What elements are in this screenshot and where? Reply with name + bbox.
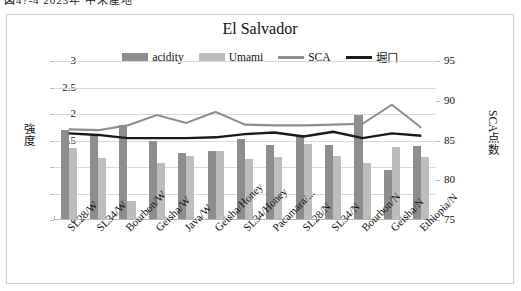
y-tick-mark-right — [436, 61, 440, 62]
y-tick-label-right: 85 — [444, 134, 455, 146]
y-tick-mark-left — [50, 194, 54, 195]
y-tick-mark-right — [436, 141, 440, 142]
line-series-sca — [69, 105, 422, 130]
y-tick-mark-left — [50, 141, 54, 142]
y-axis-label-left: 強度 — [21, 123, 37, 147]
y-tick-mark-left — [50, 114, 54, 115]
y-tick-mark-right — [436, 180, 440, 181]
y-axis-label-right: SCA点数 — [485, 110, 501, 156]
line-series-horiguchi — [69, 132, 422, 138]
cropped-text-above-chart: 図4?-4 2023年 中米産地 — [0, 0, 521, 13]
cropped-caption-text: 図4?-4 2023年 中米産地 — [4, 0, 133, 7]
y-tick-mark-left — [50, 61, 54, 62]
x-tick-mark — [54, 216, 55, 220]
y-tick-label-right: 95 — [444, 54, 455, 66]
y-tick-label-right: 90 — [444, 94, 455, 106]
x-axis-labels: SL28/WSL34/WBourbon/WGeisha/WJava/WGeish… — [54, 225, 436, 285]
chart-title: El Salvador — [7, 20, 513, 38]
y-tick-label-right: 75 — [444, 213, 455, 225]
legend-swatch-sca-icon — [278, 56, 304, 59]
y-tick-mark-right — [436, 101, 440, 102]
legend-swatch-horiguchi-icon — [346, 56, 372, 59]
y-tick-mark-left — [50, 88, 54, 89]
legend-swatch-acidity-icon — [122, 53, 148, 61]
y-tick-label-right: 80 — [444, 173, 455, 185]
legend-swatch-umami-icon — [199, 53, 225, 61]
chart-container: El Salvador acidity Umami SCA 堀口 強度 SCA点… — [6, 14, 514, 284]
y-tick-mark-left — [50, 220, 54, 221]
y-tick-mark-left — [50, 167, 54, 168]
